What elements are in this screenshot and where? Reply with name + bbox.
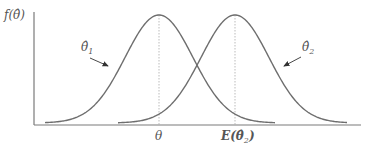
- theta1-arrow-icon: [90, 58, 108, 66]
- expected-theta2-tick-label: E(θ̂2): [220, 129, 255, 145]
- theta-tick-label: θ: [155, 129, 163, 143]
- y-axis-label: f(θ̂): [3, 8, 25, 22]
- density-curve-theta1: [45, 15, 275, 123]
- theta2-arrow-icon: [284, 57, 301, 66]
- theta2-label: θ̂2: [302, 40, 314, 56]
- sampling-distributions-diagram: f(θ̂) θ̂1 θ̂2 θ E(θ̂2): [0, 0, 375, 153]
- density-curve-theta2: [118, 15, 347, 123]
- theta1-label: θ̂1: [81, 40, 93, 56]
